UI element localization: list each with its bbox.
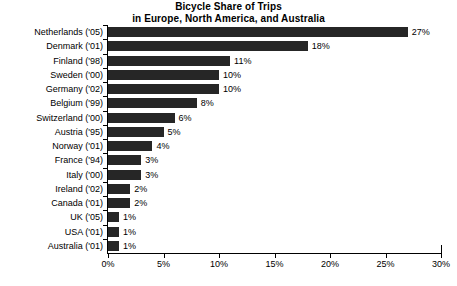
- category-label: Australia ('01): [0, 239, 103, 253]
- bar-row: Austria ('95)5%: [0, 125, 457, 139]
- y-axis-tick: [103, 25, 108, 26]
- bar: [108, 27, 408, 37]
- y-axis-tick: [103, 225, 108, 226]
- x-axis-tick: [275, 253, 276, 258]
- y-axis-tick: [103, 111, 108, 112]
- category-label: Canada ('01): [0, 196, 103, 210]
- bar-row: Sweden ('00)10%: [0, 68, 457, 82]
- y-axis-tick: [103, 139, 108, 140]
- bicycle-share-bar-chart: Bicycle Share of Trips in Europe, North …: [0, 0, 457, 286]
- category-label: Belgium ('99): [0, 96, 103, 110]
- y-axis-tick: [103, 125, 108, 126]
- bar: [108, 127, 164, 137]
- category-label: Norway ('01): [0, 139, 103, 153]
- bar: [108, 212, 119, 222]
- bar-value-label: 1%: [119, 210, 136, 224]
- category-label: Italy ('00): [0, 168, 103, 182]
- bar: [108, 98, 197, 108]
- bar-row: Italy ('00)3%: [0, 168, 457, 182]
- x-axis-tick: [164, 253, 165, 258]
- bar: [108, 113, 175, 123]
- bar-value-label: 3%: [141, 153, 158, 167]
- y-axis-tick: [103, 39, 108, 40]
- bar-value-label: 1%: [119, 239, 136, 253]
- bar: [108, 227, 119, 237]
- x-axis-tick: [219, 253, 220, 258]
- category-label: Finland ('98): [0, 54, 103, 68]
- bar-value-label: 1%: [119, 225, 136, 239]
- bar-row: UK ('05)1%: [0, 210, 457, 224]
- category-label: Sweden ('00): [0, 68, 103, 82]
- chart-title-line-1: Bicycle Share of Trips: [0, 1, 457, 13]
- bar-row: Canada ('01)2%: [0, 196, 457, 210]
- bar-row: USA ('01)1%: [0, 225, 457, 239]
- category-label: Denmark ('01): [0, 39, 103, 53]
- bar: [108, 241, 119, 251]
- bar-row: Switzerland ('00)6%: [0, 111, 457, 125]
- x-axis-tick-label: 15%: [255, 259, 295, 269]
- chart-title: Bicycle Share of Trips in Europe, North …: [0, 1, 457, 24]
- bar-value-label: 2%: [130, 196, 147, 210]
- y-axis-tick: [103, 196, 108, 197]
- bar: [108, 70, 219, 80]
- bar-row: Denmark ('01)18%: [0, 39, 457, 53]
- bar-value-label: 4%: [152, 139, 169, 153]
- y-axis-tick: [103, 153, 108, 154]
- bar-value-label: 11%: [230, 54, 251, 68]
- chart-title-line-2: in Europe, North America, and Australia: [0, 13, 457, 25]
- bar: [108, 84, 219, 94]
- bar-value-label: 8%: [197, 96, 214, 110]
- bar: [108, 155, 141, 165]
- category-label: Austria ('95): [0, 125, 103, 139]
- y-axis-tick: [103, 182, 108, 183]
- x-axis-tick-label: 30%: [421, 259, 457, 269]
- x-axis-tick: [441, 253, 442, 258]
- y-axis-tick: [103, 239, 108, 240]
- x-axis-tick: [330, 253, 331, 258]
- x-axis-tick-label: 20%: [310, 259, 350, 269]
- bar-value-label: 10%: [219, 82, 241, 96]
- x-axis-tick-label: 0%: [88, 259, 128, 269]
- x-axis-tick-label: 25%: [366, 259, 406, 269]
- x-axis-tick-label: 10%: [199, 259, 239, 269]
- y-axis-tick: [103, 168, 108, 169]
- y-axis-tick: [103, 54, 108, 55]
- bar-value-label: 10%: [219, 68, 241, 82]
- bar-row: Netherlands ('05)27%: [0, 25, 457, 39]
- bar-row: Belgium ('99)8%: [0, 96, 457, 110]
- x-axis-tick: [108, 253, 109, 258]
- bar-value-label: 2%: [130, 182, 147, 196]
- bar: [108, 141, 152, 151]
- bar: [108, 56, 230, 66]
- bar-row: Australia ('01)1%: [0, 239, 457, 253]
- bar-value-label: 3%: [141, 168, 158, 182]
- bar-row: France ('94)3%: [0, 153, 457, 167]
- bar-row: Ireland ('02)2%: [0, 182, 457, 196]
- category-label: Ireland ('02): [0, 182, 103, 196]
- bar-row: Norway ('01)4%: [0, 139, 457, 153]
- category-label: France ('94): [0, 153, 103, 167]
- y-axis-tick: [103, 82, 108, 83]
- bar: [108, 41, 308, 51]
- bar-row: Germany ('02)10%: [0, 82, 457, 96]
- bar-row: Finland ('98)11%: [0, 54, 457, 68]
- bar: [108, 198, 130, 208]
- bar: [108, 170, 141, 180]
- x-axis-tick-label: 5%: [144, 259, 184, 269]
- bar-value-label: 5%: [164, 125, 181, 139]
- bar: [108, 184, 130, 194]
- y-axis-tick: [103, 210, 108, 211]
- category-label: Germany ('02): [0, 82, 103, 96]
- bar-value-label: 6%: [175, 111, 192, 125]
- bar-value-label: 18%: [308, 39, 330, 53]
- category-label: USA ('01): [0, 225, 103, 239]
- bar-value-label: 27%: [408, 25, 430, 39]
- y-axis-tick: [103, 96, 108, 97]
- category-label: Netherlands ('05): [0, 25, 103, 39]
- category-label: Switzerland ('00): [0, 111, 103, 125]
- category-label: UK ('05): [0, 210, 103, 224]
- x-axis-tick: [386, 253, 387, 258]
- y-axis-tick: [103, 68, 108, 69]
